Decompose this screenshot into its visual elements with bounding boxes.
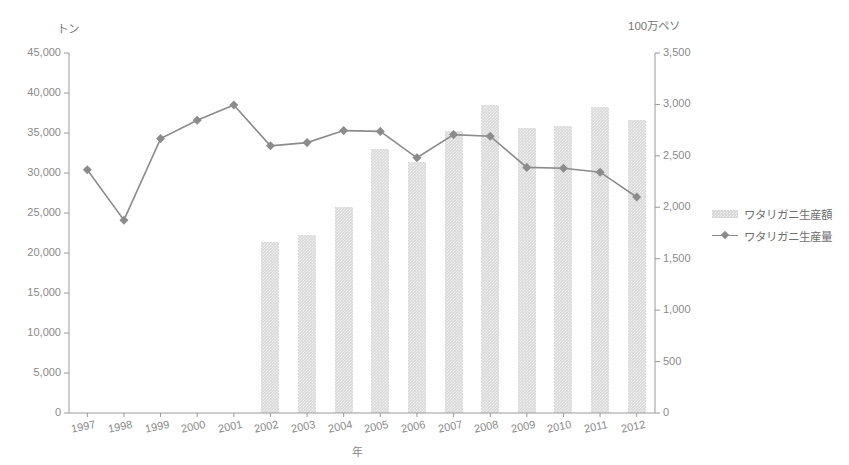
plot-area [69, 53, 655, 413]
x-tick-2010: 2010 [546, 418, 572, 435]
right-tick-1500: 1,500 [663, 252, 709, 264]
legend-item-production-volume: ワタリガニ生産量 [712, 225, 832, 247]
legend-label-production-value: ワタリガニ生産額 [744, 206, 832, 222]
x-tick-2002: 2002 [253, 418, 279, 435]
left-tick-45000: 45,000 [15, 46, 61, 58]
left-tick-10000: 10,000 [15, 326, 61, 338]
left-tick-30000: 30,000 [15, 166, 61, 178]
x-tick-1997: 1997 [70, 418, 96, 435]
x-tick-2004: 2004 [327, 418, 353, 435]
bar-swatch-icon [712, 210, 738, 218]
right-tick-2500: 2,500 [663, 149, 709, 161]
crab-production-chart: トン 100万ペソ 05,00010,00015,00020,00025,000… [0, 0, 849, 465]
line-path [87, 105, 636, 220]
left-tick-35000: 35,000 [15, 126, 61, 138]
line-markers [83, 100, 641, 224]
right-axis-unit-label: 100万ペソ [628, 17, 680, 33]
right-tick-3500: 3,500 [663, 46, 709, 58]
line-marker-2007 [449, 130, 458, 139]
x-tick-1999: 1999 [144, 418, 170, 435]
right-tick-2000: 2,000 [663, 200, 709, 212]
line-marker-2003 [303, 138, 312, 147]
x-tick-1998: 1998 [107, 418, 133, 435]
x-tick-2003: 2003 [290, 418, 316, 435]
line-marker-2004 [339, 126, 348, 135]
x-axis-title: 年 [352, 443, 363, 459]
legend-label-production-volume: ワタリガニ生産量 [744, 228, 832, 244]
left-tick-15000: 15,000 [15, 286, 61, 298]
x-tick-2007: 2007 [437, 418, 463, 435]
x-tick-2012: 2012 [620, 418, 646, 435]
left-axis-unit-label: トン [57, 20, 79, 36]
chart-legend: ワタリガニ生産額 ワタリガニ生産量 [712, 203, 832, 247]
left-tick-5000: 5,000 [15, 366, 61, 378]
right-tick-3000: 3,000 [663, 97, 709, 109]
line-diamond-swatch-icon [712, 231, 738, 241]
right-tick-500: 500 [663, 355, 709, 367]
x-tick-2011: 2011 [583, 418, 609, 435]
left-tick-0: 0 [15, 406, 61, 418]
x-tick-2001: 2001 [217, 418, 243, 435]
x-tick-2006: 2006 [400, 418, 426, 435]
x-tick-2000: 2000 [180, 418, 206, 435]
right-tick-0: 0 [663, 406, 709, 418]
right-tick-1000: 1,000 [663, 303, 709, 315]
line-marker-1999 [156, 134, 165, 143]
line-marker-2010 [559, 164, 568, 173]
left-tick-25000: 25,000 [15, 206, 61, 218]
left-tick-20000: 20,000 [15, 246, 61, 258]
left-tick-40000: 40,000 [15, 86, 61, 98]
x-tick-2009: 2009 [510, 418, 536, 435]
legend-item-production-value: ワタリガニ生産額 [712, 203, 832, 225]
line-marker-2000 [193, 116, 202, 125]
line-series-production-volume [69, 53, 655, 413]
x-tick-2005: 2005 [363, 418, 389, 435]
line-marker-2011 [596, 168, 605, 177]
line-marker-2012 [632, 192, 641, 201]
x-tick-2008: 2008 [473, 418, 499, 435]
